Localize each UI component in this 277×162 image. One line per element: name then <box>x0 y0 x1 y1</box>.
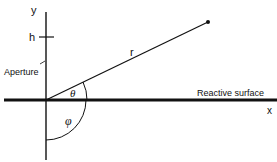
r-label: r <box>130 46 134 58</box>
reactive-surface-label: Reactive surface <box>197 88 264 98</box>
source-point <box>206 20 210 24</box>
aperture-leader <box>40 61 45 64</box>
y-axis-label: y <box>31 4 37 16</box>
geometry-diagram: y h Aperture r θ φ Reactive surface x <box>0 0 277 162</box>
theta-label: θ <box>70 87 76 99</box>
theta-arc <box>83 82 87 100</box>
phi-label: φ <box>65 114 72 128</box>
aperture-label: Aperture <box>4 67 39 77</box>
h-label: h <box>29 31 35 43</box>
x-axis-label: x <box>267 105 272 116</box>
